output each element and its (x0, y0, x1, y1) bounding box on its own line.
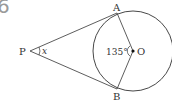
label-A: A (112, 2, 121, 13)
tangent-circle-diagram: P A B O 135° x (0, 0, 172, 101)
radius-OA (117, 13, 133, 51)
angle-arc-P (39, 47, 40, 55)
centre-point (131, 49, 134, 52)
label-B: B (113, 91, 120, 101)
tangent-PB (30, 51, 117, 89)
angle-O-label: 135° (106, 47, 128, 57)
angle-P-label: x (42, 46, 47, 56)
label-O: O (137, 46, 145, 57)
angle-arc-O (127, 46, 130, 56)
label-P: P (19, 46, 26, 57)
